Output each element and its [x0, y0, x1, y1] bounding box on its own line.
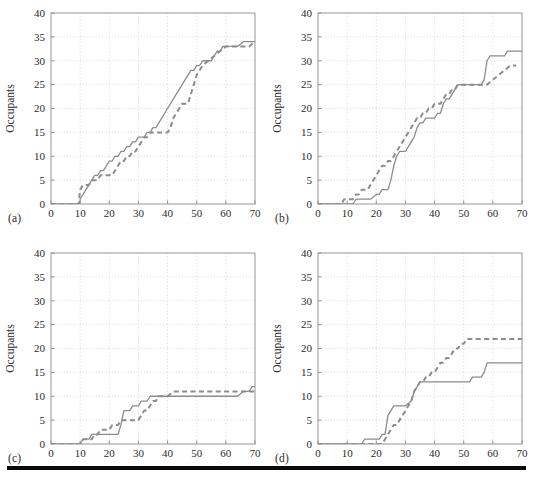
svg-text:60: 60 [487, 207, 499, 219]
gridlines [318, 13, 522, 204]
axis-ticks: 0102030405060700510152025303540 [301, 7, 528, 219]
svg-text:10: 10 [301, 390, 313, 402]
axis-ticks: 0102030405060700510152025303540 [34, 7, 261, 219]
series-dashed [51, 391, 255, 444]
svg-text:30: 30 [400, 447, 412, 459]
bottom-horizontal-rule [7, 466, 526, 470]
svg-text:20: 20 [104, 207, 116, 219]
svg-text:30: 30 [34, 295, 46, 307]
svg-text:10: 10 [342, 207, 354, 219]
series-dashed [318, 66, 516, 204]
chart-panel-a: 0102030405060700510152025303540Time (s)O… [0, 0, 266, 240]
gridlines [51, 253, 255, 444]
axis-ticks: 0102030405060700510152025303540 [301, 247, 528, 459]
svg-text:30: 30 [133, 447, 145, 459]
svg-text:30: 30 [400, 207, 412, 219]
svg-text:10: 10 [75, 447, 87, 459]
svg-text:15: 15 [34, 366, 46, 378]
svg-text:60: 60 [487, 447, 499, 459]
svg-text:20: 20 [371, 447, 383, 459]
svg-text:15: 15 [301, 126, 313, 138]
svg-text:0: 0 [307, 438, 313, 450]
figure-container: 0102030405060700510152025303540Time (s)O… [0, 0, 533, 481]
svg-text:0: 0 [315, 207, 321, 219]
panel-caption-b: (b) [275, 212, 289, 224]
y-axis-label: Occupants [4, 324, 17, 373]
gridlines [51, 13, 255, 204]
svg-text:35: 35 [34, 31, 46, 43]
svg-text:0: 0 [40, 198, 46, 210]
svg-text:40: 40 [301, 7, 313, 19]
svg-text:10: 10 [301, 150, 313, 162]
svg-text:70: 70 [250, 447, 262, 459]
svg-text:30: 30 [133, 207, 145, 219]
svg-text:0: 0 [48, 447, 54, 459]
svg-text:15: 15 [34, 126, 46, 138]
x-axis-label: Time (s) [134, 225, 173, 226]
svg-text:35: 35 [34, 271, 46, 283]
series-dashed [51, 42, 255, 204]
axis-ticks: 0102030405060700510152025303540 [34, 247, 261, 459]
svg-text:20: 20 [371, 207, 383, 219]
svg-text:40: 40 [429, 447, 441, 459]
series-dashed [318, 339, 522, 444]
svg-text:40: 40 [162, 207, 174, 219]
chart-panel-b: 0102030405060700510152025303540Time (s)O… [267, 0, 533, 240]
svg-text:40: 40 [429, 207, 441, 219]
panel-caption-d: (d) [275, 452, 289, 464]
plot-b: 0102030405060700510152025303540Time (s)O… [267, 0, 533, 226]
y-axis-label: Occupants [271, 84, 284, 133]
svg-text:10: 10 [34, 150, 46, 162]
svg-text:0: 0 [48, 207, 54, 219]
gridlines [318, 253, 522, 444]
plot-a: 0102030405060700510152025303540Time (s)O… [0, 0, 266, 226]
svg-text:15: 15 [301, 366, 313, 378]
svg-text:10: 10 [342, 447, 354, 459]
svg-text:5: 5 [40, 174, 46, 186]
svg-text:25: 25 [301, 78, 313, 90]
svg-text:25: 25 [34, 78, 46, 90]
svg-text:50: 50 [191, 207, 203, 219]
svg-text:5: 5 [307, 414, 313, 426]
svg-text:25: 25 [34, 318, 46, 330]
svg-text:50: 50 [458, 207, 470, 219]
svg-text:20: 20 [34, 102, 46, 114]
svg-text:0: 0 [315, 447, 321, 459]
svg-text:40: 40 [34, 7, 46, 19]
chart-panel-c: 0102030405060700510152025303540Time (s)O… [0, 240, 266, 480]
series-solid [318, 363, 522, 444]
svg-text:40: 40 [34, 247, 46, 259]
svg-text:40: 40 [301, 247, 313, 259]
svg-text:70: 70 [517, 447, 529, 459]
svg-text:60: 60 [220, 207, 232, 219]
svg-text:10: 10 [75, 207, 87, 219]
svg-text:25: 25 [301, 318, 313, 330]
plot-c: 0102030405060700510152025303540Time (s)O… [0, 240, 266, 466]
svg-text:50: 50 [191, 447, 203, 459]
svg-text:40: 40 [162, 447, 174, 459]
svg-text:5: 5 [40, 414, 46, 426]
panel-caption-a: (a) [8, 212, 21, 224]
svg-text:30: 30 [34, 55, 46, 67]
svg-text:50: 50 [458, 447, 470, 459]
svg-text:0: 0 [307, 198, 313, 210]
svg-text:30: 30 [301, 295, 313, 307]
y-axis-label: Occupants [4, 84, 17, 133]
panel-caption-c: (c) [8, 452, 21, 464]
y-axis-label: Occupants [271, 324, 284, 373]
svg-text:20: 20 [301, 102, 313, 114]
svg-text:10: 10 [34, 390, 46, 402]
svg-text:30: 30 [301, 55, 313, 67]
svg-text:5: 5 [307, 174, 313, 186]
svg-text:20: 20 [104, 447, 116, 459]
svg-text:20: 20 [34, 342, 46, 354]
svg-text:70: 70 [250, 207, 262, 219]
svg-text:60: 60 [220, 447, 232, 459]
plot-d: 0102030405060700510152025303540Time (s)O… [267, 240, 533, 466]
svg-text:0: 0 [40, 438, 46, 450]
svg-text:35: 35 [301, 271, 313, 283]
svg-text:20: 20 [301, 342, 313, 354]
svg-text:70: 70 [517, 207, 529, 219]
series-solid [51, 387, 255, 444]
series-solid [318, 51, 522, 204]
